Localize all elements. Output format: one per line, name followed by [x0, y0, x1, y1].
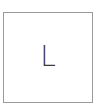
tile-letter: L [4, 43, 92, 71]
letter-tile[interactable]: L [3, 12, 93, 103]
